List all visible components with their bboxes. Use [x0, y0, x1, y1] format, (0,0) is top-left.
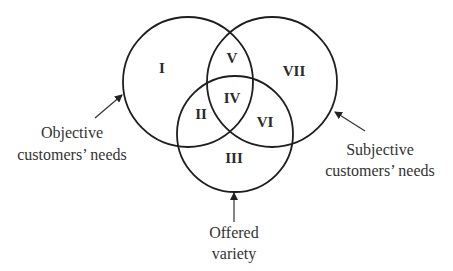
arrow-subjective-icon [335, 112, 365, 131]
label-objective-line1: Objective [41, 124, 103, 142]
region-II: II [195, 106, 207, 122]
region-VI: VI [257, 114, 274, 130]
region-III: III [225, 150, 243, 166]
arrow-objective-icon [95, 95, 122, 118]
region-V: V [227, 50, 238, 66]
label-objective-line2: customers’ needs [17, 146, 126, 163]
venn-diagram: I V VII IV II VI III Objective customers… [0, 0, 453, 271]
circle-objective-needs [123, 17, 253, 147]
label-subjective-line1: Subjective [346, 141, 414, 159]
region-VII: VII [283, 63, 306, 79]
region-I: I [159, 60, 165, 76]
label-subjective-line2: customers’ needs [325, 162, 434, 179]
label-offered-line1: Offered [209, 224, 258, 241]
region-IV: IV [224, 90, 241, 106]
label-offered-line2: variety [212, 245, 256, 263]
